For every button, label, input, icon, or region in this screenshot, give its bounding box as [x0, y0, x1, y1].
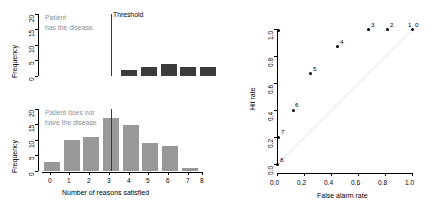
top-bar-4 [141, 67, 157, 76]
roc-xtick-0.4 [331, 173, 332, 176]
bottom-xticklabel-1: 1 [67, 178, 71, 185]
roc-xticklabel-1.0: 1.0 [405, 180, 414, 187]
roc-xlabel: False alarm rate [317, 192, 368, 199]
roc-point-label-1: 1 [408, 22, 411, 28]
bottom-xticklabel-5: 5 [146, 178, 150, 185]
bottom-xtick-2 [89, 172, 90, 175]
bottom-xtick-5 [148, 172, 149, 175]
roc-point-label-2: 2 [390, 22, 393, 28]
bottom-bar-6 [162, 146, 178, 171]
roc-xtick-0.6 [358, 173, 359, 176]
bottom-yticklabel-5: 5 [29, 156, 36, 160]
bottom-xticklabel-8: 8 [200, 178, 204, 185]
bottom-bar-5 [142, 143, 158, 171]
bottom-bar-7 [182, 168, 198, 171]
roc-point-label-0: 0 [415, 22, 418, 28]
bottom-histogram-ylabel: Frequency [11, 140, 18, 173]
bottom-bar-1 [64, 140, 80, 171]
bottom-xticklabel-7: 7 [186, 178, 190, 185]
roc-xtick-0.2 [304, 173, 305, 176]
bottom-yticklabel-0: 0 [29, 172, 36, 176]
roc-yticklabel-0.6: 0.6 [268, 85, 275, 94]
top-bar-7 [200, 67, 216, 76]
top-yticklabel-10: 10 [29, 46, 36, 53]
roc-xtick-1.0 [412, 173, 413, 176]
top-histogram-panel: Frequency 20 15 10 5 0 Patient has the d… [0, 0, 216, 96]
top-yticklabel-0: 0 [29, 77, 36, 81]
bottom-yticklabel-15: 15 [29, 125, 36, 132]
bottom-xticklabel-2: 2 [87, 178, 91, 185]
top-threshold-line [111, 14, 112, 76]
roc-point-5 [309, 72, 312, 75]
roc-xticklabel-0.2: 0.2 [297, 180, 306, 187]
roc-yticklabel-1.0: 1.0 [268, 31, 275, 40]
bottom-xtick-4 [129, 172, 130, 175]
top-yticklabel-15: 15 [29, 30, 36, 37]
top-bar-3 [121, 70, 137, 76]
bottom-xticklabel-3: 3 [107, 178, 111, 185]
bottom-histogram-yaxis [38, 109, 39, 171]
bottom-xtick-8 [202, 172, 203, 175]
roc-point-label-7: 7 [281, 129, 284, 135]
roc-point-label-5: 5 [313, 66, 316, 72]
roc-xtick-0.0 [277, 173, 278, 176]
top-yticklabel-5: 5 [29, 61, 36, 65]
top-histogram-yaxis [38, 14, 39, 76]
roc-point-2 [386, 28, 389, 31]
roc-xticklabel-0.0: 0.0 [270, 180, 279, 187]
bottom-bar-2 [83, 137, 99, 171]
bottom-bar-0 [44, 162, 60, 171]
roc-point-label-8: 8 [280, 157, 283, 163]
roc-point-3 [367, 28, 370, 31]
roc-yticklabel-0.4: 0.4 [268, 112, 275, 121]
roc-point-label-6: 6 [295, 102, 298, 108]
top-yticklabel-20: 20 [29, 15, 36, 22]
bottom-xticklabel-6: 6 [166, 178, 170, 185]
roc-yticklabel-0.0: 0.0 [268, 166, 275, 175]
top-histogram-plotarea [42, 14, 210, 76]
roc-xticklabel-0.6: 0.6 [351, 180, 360, 187]
roc-panel: Hit rate 1.0 0.8 0.6 0.4 0.2 0.0 0.0 0.2… [216, 0, 434, 216]
roc-xticklabel-0.4: 0.4 [324, 180, 333, 187]
bottom-bar-4 [123, 125, 139, 172]
bottom-yticklabel-20: 20 [29, 110, 36, 117]
roc-point-4 [336, 45, 339, 48]
bottom-histogram-xlabel: Number of reasons satisfied [62, 189, 149, 196]
bottom-xticklabel-4: 4 [127, 178, 131, 185]
top-histogram-ylabel: Frequency [11, 45, 18, 78]
top-threshold-label: Threshold [113, 12, 143, 19]
roc-point-label-4: 4 [340, 39, 343, 45]
roc-yticklabel-0.2: 0.2 [268, 139, 275, 148]
roc-point-label-3: 3 [371, 22, 374, 28]
bottom-xticklabel-0: 0 [48, 178, 52, 185]
roc-point-8 [276, 163, 279, 166]
roc-ylabel: Hit rate [249, 87, 256, 110]
bottom-xtick-1 [69, 172, 70, 175]
bottom-histogram-xaxis [42, 172, 202, 173]
top-bar-6 [180, 67, 196, 76]
roc-diagonal-reference [277, 29, 413, 165]
bottom-histogram-plotarea [42, 109, 210, 171]
roc-point-7 [277, 136, 280, 139]
bottom-yticklabel-10: 10 [29, 141, 36, 148]
roc-plotarea: 0 1 2 3 4 5 6 7 8 [277, 29, 417, 169]
bottom-xtick-3 [109, 172, 110, 175]
roc-point-6 [292, 109, 295, 112]
roc-point-1 [277, 29, 280, 32]
bottom-xtick-7 [188, 172, 189, 175]
roc-xtick-0.8 [385, 173, 386, 176]
roc-xaxis [277, 173, 412, 174]
bottom-xtick-6 [168, 172, 169, 175]
bottom-histogram-panel: Frequency 20 15 10 5 0 Patient does not … [0, 96, 216, 216]
top-bar-5 [161, 64, 177, 76]
bottom-threshold-line [111, 109, 112, 171]
roc-xticklabel-0.8: 0.8 [378, 180, 387, 187]
roc-yticklabel-0.8: 0.8 [268, 58, 275, 67]
bottom-xtick-0 [50, 172, 51, 175]
